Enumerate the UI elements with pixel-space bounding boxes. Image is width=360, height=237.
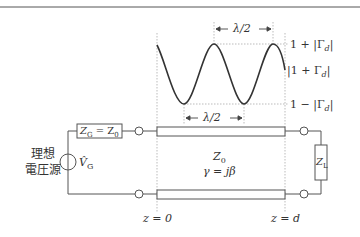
position-start-label: z = 0 xyxy=(143,213,172,224)
generator-impedance-label: ZG = Z0 xyxy=(80,126,119,139)
terminal-left-top xyxy=(135,127,143,135)
transmission-line-diagram: λ/2 λ/2 1 + |Γd| |1 + Γd| 1 − |Γd| 理想 電圧… xyxy=(0,0,360,237)
characteristic-impedance-label: Z0 xyxy=(213,151,226,165)
load-impedance-label: ZL xyxy=(316,157,328,170)
terminal-right-top xyxy=(300,127,308,135)
propagation-constant-label: γ = jβ xyxy=(203,166,236,177)
line-conductor-top xyxy=(157,127,285,136)
diagram-graphics xyxy=(0,0,360,237)
terminal-right-bottom xyxy=(300,190,308,198)
line-conductor-bottom xyxy=(157,190,285,199)
max-amplitude-label: 1 + |Γd| xyxy=(290,39,333,53)
ideal-voltage-source-label: 理想 電圧源 xyxy=(25,146,61,178)
voltage-source-icon xyxy=(60,154,76,170)
terminal-left-bottom xyxy=(135,190,143,198)
end-amplitude-label: |1 + Γd| xyxy=(287,65,330,79)
standing-wave-curve xyxy=(157,44,285,104)
bottom-half-wavelength-label: λ/2 xyxy=(203,112,221,123)
circuit-wires xyxy=(68,131,321,194)
min-amplitude-label: 1 − |Γd| xyxy=(290,99,333,113)
position-end-label: z = d xyxy=(271,213,300,224)
source-voltage-label: V̂G xyxy=(79,157,93,171)
top-half-wavelength-label: λ/2 xyxy=(233,23,251,34)
